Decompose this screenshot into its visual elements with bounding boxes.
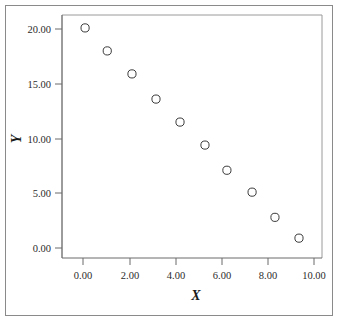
x-tick-label: 0.00	[74, 270, 92, 281]
x-tick-label: 2.00	[121, 270, 139, 281]
plot-area-frame	[62, 15, 322, 258]
y-tick-label: 0.00	[33, 243, 51, 254]
data-point	[271, 213, 279, 221]
x-axis-title: X	[190, 288, 201, 303]
scatter-plot-figure: 20.00 15.00 10.00 5.00 0.00 Y 0.00 2.00	[0, 0, 339, 322]
x-tick-label: 8.00	[259, 270, 277, 281]
y-tick-label: 10.00	[27, 134, 51, 145]
y-axis-tick-labels: 20.00 15.00 10.00 5.00 0.00	[27, 24, 51, 254]
x-axis-ticks	[83, 258, 314, 265]
y-tick-label: 15.00	[27, 79, 51, 90]
data-point	[223, 166, 231, 174]
y-axis-ticks	[55, 29, 62, 248]
x-tick-label: 10.00	[302, 270, 326, 281]
data-point	[248, 188, 256, 196]
y-tick-label: 20.00	[27, 24, 51, 35]
data-points-layer	[81, 24, 303, 242]
x-tick-label: 6.00	[213, 270, 231, 281]
data-point	[201, 141, 209, 149]
plot-canvas: 20.00 15.00 10.00 5.00 0.00 Y 0.00 2.00	[0, 0, 339, 322]
y-axis-title: Y	[9, 133, 24, 143]
y-tick-label: 5.00	[33, 188, 51, 199]
y-axis: 20.00 15.00 10.00 5.00 0.00 Y	[9, 15, 62, 258]
data-point	[152, 95, 160, 103]
x-tick-label: 4.00	[167, 270, 185, 281]
x-axis-tick-labels: 0.00 2.00 4.00 6.00 8.00 10.00	[74, 270, 326, 281]
x-axis: 0.00 2.00 4.00 6.00 8.00 10.00 X	[62, 258, 326, 303]
data-point	[81, 24, 89, 32]
data-point	[103, 47, 111, 55]
data-point	[176, 118, 184, 126]
data-point	[295, 234, 303, 242]
data-point	[128, 70, 136, 78]
